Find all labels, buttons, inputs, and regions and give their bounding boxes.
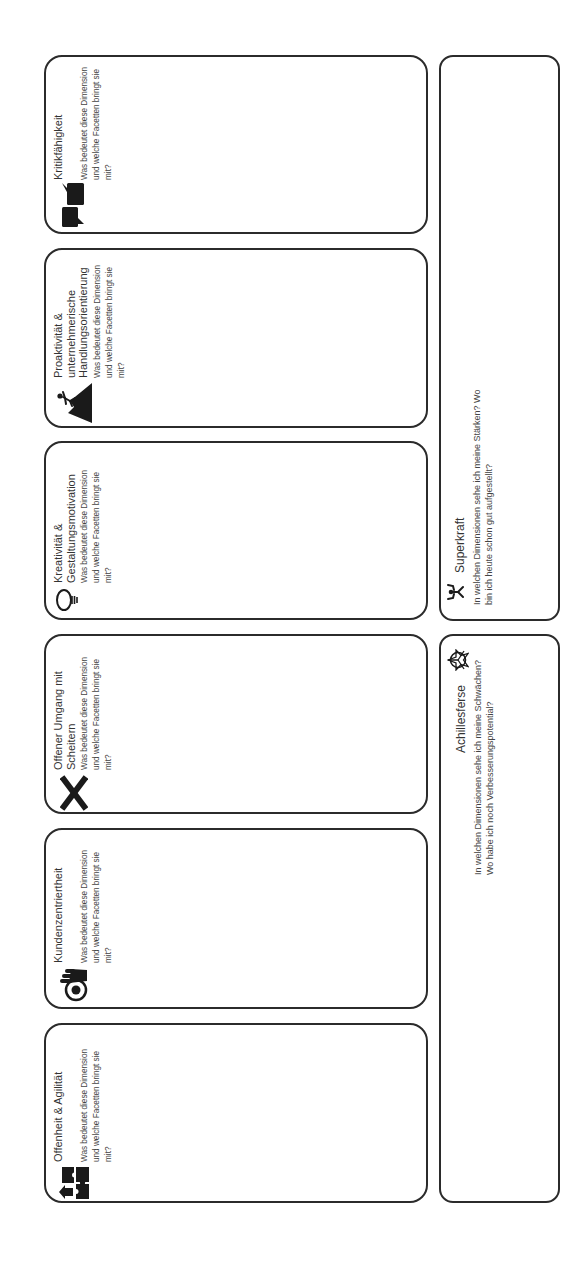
dimension-card-kundenzentriertheit: Kundenzentriertheit Was bedeutet diese D… xyxy=(44,828,428,1009)
dimension-title: Offenheit & Agilität xyxy=(52,1049,77,1162)
achillesferse-title: Achillesferse xyxy=(454,685,468,753)
superkraft-title: Superkraft xyxy=(453,518,467,573)
dimension-description: Was bedeutet diese Dimension und welche … xyxy=(79,470,115,583)
reflection-card-achillesferse: Achillesferse In welchen Dimensionen seh… xyxy=(439,634,560,1203)
dimension-title: Offener Umgang mit Scheitern xyxy=(52,657,77,770)
dimension-title: Kritikfähigkeit xyxy=(52,67,77,180)
strongman-icon xyxy=(446,583,464,601)
dimension-description: Was bedeutet diese Dimension und welche … xyxy=(92,265,128,378)
dimension-card-scheitern: Offener Umgang mit Scheitern Was bedeute… xyxy=(44,634,428,814)
dimension-description: Was bedeutet diese Dimension und welche … xyxy=(79,850,115,963)
x-mark-icon xyxy=(60,774,88,812)
customer-target-icon xyxy=(59,967,88,1003)
speech-bubbles-icon xyxy=(62,183,86,227)
dimension-card-proaktivitaet: Proaktivität & unternehmerische Handlung… xyxy=(44,248,428,428)
dimension-title: Proaktivität & unternehmerische Handlung… xyxy=(52,265,90,378)
reflection-card-superkraft: Superkraft In welchen Dimensionen sehe i… xyxy=(439,55,560,621)
light-bulb-icon xyxy=(56,587,79,613)
dimension-card-offenheit: Offenheit & Agilität Was bedeutet diese … xyxy=(44,1023,428,1203)
dimension-title: Kundenzentriertheit xyxy=(52,850,77,963)
achillesferse-description: In welchen Dimensionen sehe ich meine Sc… xyxy=(472,660,496,875)
climber-mountain-icon xyxy=(56,379,92,425)
dimension-description: Was bedeutet diese Dimension und welche … xyxy=(79,657,115,770)
dimension-card-kritikfaehigkeit: Kritikfähigkeit Was bedeutet diese Dimen… xyxy=(44,55,428,234)
web-target-icon xyxy=(447,649,469,671)
dimension-description: Was bedeutet diese Dimension und welche … xyxy=(79,67,115,180)
dimension-title: Kreativität & Gestaltungsmotivation xyxy=(52,470,77,583)
superkraft-description: In welchen Dimensionen sehe ich meine St… xyxy=(471,390,495,605)
dimension-card-kreativitaet: Kreativität & Gestaltungsmotivation Was … xyxy=(44,441,428,620)
puzzle-pieces-icon xyxy=(59,1166,90,1200)
dimension-description: Was bedeutet diese Dimension und welche … xyxy=(79,1049,115,1162)
